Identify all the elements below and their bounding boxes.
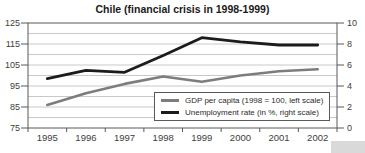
x-axis-label: 2000: [221, 133, 259, 142]
x-axis-label: 1998: [144, 133, 182, 142]
left-axis-label: 105: [0, 61, 20, 70]
x-axis-label: 1997: [106, 133, 144, 142]
left-axis-label: 95: [0, 82, 20, 91]
right-axis-label: 4: [347, 82, 365, 91]
legend-item-unemployment: Unemployment rate (in %, right scale): [161, 108, 323, 117]
legend-label-unemployment: Unemployment rate (in %, right scale): [185, 108, 319, 117]
right-axis-label: 6: [347, 61, 365, 70]
right-axis-label: 10: [347, 19, 365, 28]
x-axis-label: 1999: [183, 133, 221, 142]
legend-label-gdp: GDP per capita (1998 = 100, left scale): [185, 96, 323, 105]
right-axis-label: 0: [347, 124, 365, 133]
legend: GDP per capita (1998 = 100, left scale) …: [154, 92, 330, 121]
left-axis-label: 125: [0, 19, 20, 28]
x-axis-label: 1996: [67, 133, 105, 142]
gdp-line-swatch: [161, 99, 179, 102]
x-axis-label: 2001: [260, 133, 298, 142]
legend-item-gdp: GDP per capita (1998 = 100, left scale): [161, 96, 323, 105]
plot-canvas: [0, 0, 365, 153]
x-axis-label: 1995: [28, 133, 66, 142]
left-axis-label: 75: [0, 124, 20, 133]
chart-figure: Chile (financial crisis in 1998-1999) 12…: [0, 0, 365, 153]
right-axis-label: 8: [347, 40, 365, 49]
left-axis-label: 115: [0, 40, 20, 49]
page-corner-shade: [331, 141, 365, 153]
left-axis-label: 85: [0, 103, 20, 112]
unemployment-line-swatch: [161, 111, 179, 114]
right-axis-label: 2: [347, 103, 365, 112]
